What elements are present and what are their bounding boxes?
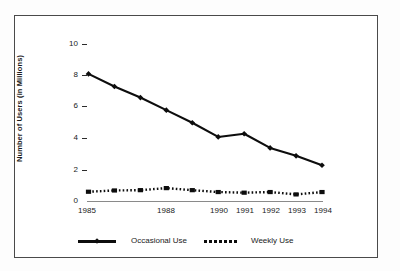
- data-point-occasional-use: [319, 162, 325, 168]
- x-tick-label-1994: 1994: [307, 206, 339, 215]
- data-point-weekly-use: [319, 190, 324, 194]
- data-point-weekly-use: [164, 186, 169, 190]
- data-point-weekly-use: [112, 188, 117, 192]
- data-point-weekly-use: [216, 190, 221, 194]
- data-point-weekly-use: [138, 188, 143, 192]
- data-point-weekly-use: [293, 192, 298, 196]
- x-tick-label-1988: 1988: [150, 206, 182, 215]
- legend-label-weekly-use: Weekly Use: [251, 236, 294, 245]
- series-line-weekly-use: [89, 188, 323, 194]
- data-point-weekly-use: [268, 190, 273, 194]
- data-point-weekly-use: [86, 190, 91, 194]
- data-point-weekly-use: [190, 188, 195, 192]
- x-tick-label-1985: 1985: [71, 206, 103, 215]
- data-point-occasional-use: [293, 153, 299, 159]
- series-line-occasional-use: [89, 74, 323, 165]
- data-point-weekly-use: [242, 191, 247, 195]
- chart-figure: Number of Users (in Millions) 10 8 6 4 2…: [0, 0, 400, 271]
- series-markers-weekly-use: [86, 186, 325, 197]
- chart-plot-area: [0, 0, 400, 271]
- legend-label-occasional-use: Occasional Use: [131, 236, 187, 245]
